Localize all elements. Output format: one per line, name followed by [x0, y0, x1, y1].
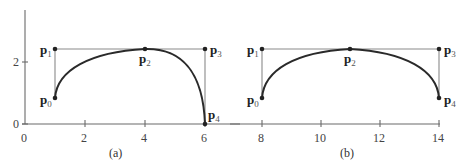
- label-p3: p3: [210, 42, 222, 59]
- control-point-p0: [53, 96, 58, 101]
- y-tick-label: 0: [13, 117, 19, 131]
- x-tick-label: 2: [81, 131, 87, 145]
- label-p1: p1: [40, 42, 52, 59]
- control-point-p1: [260, 47, 265, 52]
- panel-a: 2 0 0 2 4 6 p0 p1 p2 p3 p4 (a): [13, 10, 240, 160]
- label-p4: p4: [208, 107, 220, 124]
- control-point-p3: [203, 47, 208, 52]
- label-p1: p1: [247, 42, 259, 59]
- label-p3: p3: [444, 42, 456, 59]
- control-point-p0: [260, 96, 265, 101]
- x-tick-label: 8: [258, 131, 264, 145]
- caption-b: (b): [340, 146, 354, 160]
- x-tick-label: 10: [314, 131, 326, 145]
- panel-b: 8 10 12 14 p0 p1 p2 p3 p4 (b): [230, 42, 456, 160]
- x-tick-label: 14: [432, 131, 444, 145]
- x-tick-label: 0: [21, 131, 27, 145]
- y-tick-label: 2: [13, 55, 19, 69]
- control-point-p4: [203, 122, 208, 127]
- x-tick-label: 6: [201, 131, 207, 145]
- x-tick-label: 4: [141, 131, 147, 145]
- control-point-p1: [53, 47, 58, 52]
- control-point-p4: [437, 96, 442, 101]
- label-p2: p2: [139, 51, 151, 68]
- label-p4: p4: [444, 92, 456, 109]
- bezier-curve: [55, 49, 205, 124]
- label-p0: p0: [247, 92, 259, 109]
- caption-a: (a): [109, 146, 122, 160]
- label-p0: p0: [40, 92, 52, 109]
- label-p2: p2: [344, 51, 356, 68]
- x-tick-label: 12: [373, 131, 385, 145]
- figure: 2 0 0 2 4 6 p0 p1 p2 p3 p4 (a) 8 1: [0, 0, 466, 160]
- control-point-p3: [437, 47, 442, 52]
